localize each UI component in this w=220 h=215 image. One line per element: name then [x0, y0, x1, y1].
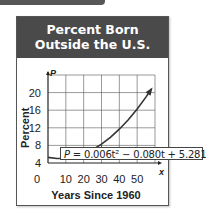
svg-text:10: 10 — [60, 173, 72, 185]
svg-text:30: 30 — [95, 173, 107, 185]
svg-text:8: 8 — [35, 139, 41, 151]
svg-text:50: 50 — [131, 173, 143, 185]
svg-text:x: x — [158, 167, 165, 177]
svg-text:Years Since 1960: Years Since 1960 — [51, 189, 140, 201]
svg-text:P: P — [50, 68, 57, 78]
svg-text:0: 0 — [34, 173, 40, 185]
svg-text:40: 40 — [113, 173, 125, 185]
svg-text:20: 20 — [78, 173, 90, 185]
axis-labels: 4812162001020304050PxYears Since 1960Per… — [19, 68, 165, 201]
svg-text:20: 20 — [29, 87, 41, 99]
equation-rhs: = 0.006t² − 0.080t + 5.281 — [70, 149, 207, 160]
chart-plot: 4812162001020304050PxYears Since 1960Per… — [0, 0, 220, 215]
equation-label: P = 0.006t² − 0.080t + 5.281 — [60, 147, 203, 160]
svg-text:4: 4 — [35, 157, 41, 169]
svg-text:Percent: Percent — [19, 107, 31, 148]
